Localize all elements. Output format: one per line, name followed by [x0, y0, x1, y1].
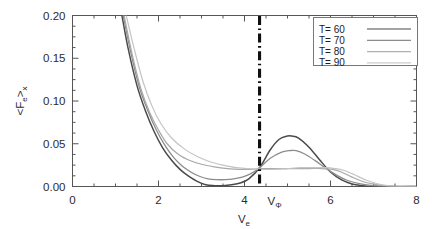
- legend[interactable]: T= 60T= 70T= 80T= 90: [314, 18, 418, 69]
- x-axis-title-subscript: e: [246, 219, 251, 228]
- legend-label-3[interactable]: T= 90: [319, 57, 345, 68]
- y-tick-label: 0.20: [43, 10, 65, 22]
- figure-container: 02468 0.000.050.100.150.20 VΦ Ve <Fe>x T…: [0, 0, 442, 229]
- legend-label-2[interactable]: T= 80: [319, 46, 345, 57]
- legend-label-1[interactable]: T= 70: [319, 35, 345, 46]
- y-axis-title-sub-x: x: [20, 87, 29, 91]
- y-tick-label: 0.15: [43, 52, 65, 64]
- phi-label-subscript: Φ: [275, 201, 281, 210]
- x-tick-label: 0: [69, 194, 75, 206]
- x-tick-label: 4: [241, 194, 248, 206]
- x-tick-label: 8: [413, 194, 419, 206]
- y-tick-label: 0.10: [43, 95, 65, 107]
- x-tick-label: 2: [155, 194, 161, 206]
- legend-label-0[interactable]: T= 60: [319, 24, 345, 35]
- x-tick-label: 6: [327, 194, 333, 206]
- scientific-line-plot: 02468 0.000.050.100.150.20 VΦ Ve <Fe>x T…: [0, 0, 442, 229]
- y-tick-label: 0.00: [43, 181, 65, 193]
- y-tick-label: 0.05: [43, 138, 65, 150]
- y-axis-title-open: <F: [14, 102, 26, 116]
